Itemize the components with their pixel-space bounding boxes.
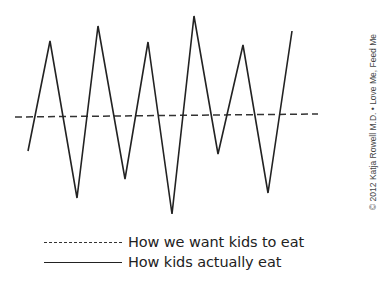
legend-item-actual: How kids actually eat — [44, 252, 304, 272]
legend-label-actual: How kids actually eat — [128, 254, 281, 270]
legend-label-ideal: How we want kids to eat — [128, 234, 304, 250]
copyright-credit: © 2012 Katja Rowell M.D. • Love Me, Feed… — [368, 34, 378, 210]
legend: How we want kids to eat How kids actuall… — [44, 232, 304, 272]
ideal-eating-dashed-line — [15, 114, 318, 117]
legend-item-ideal: How we want kids to eat — [44, 232, 304, 252]
solid-line-swatch-icon — [44, 262, 122, 263]
dashed-line-swatch-icon — [44, 242, 122, 243]
